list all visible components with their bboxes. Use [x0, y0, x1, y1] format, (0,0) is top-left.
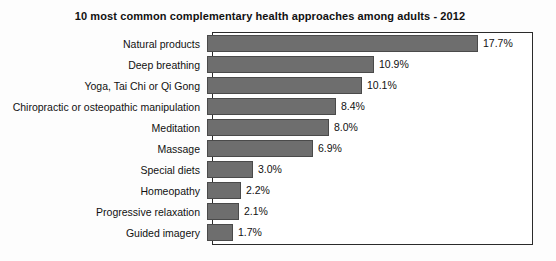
- bar-row: Guided imagery1.7%: [0, 222, 534, 243]
- bar-track: 2.2%: [206, 180, 534, 201]
- bar: [207, 182, 241, 199]
- bar-track: 6.9%: [206, 138, 534, 159]
- category-label: Massage: [0, 143, 206, 155]
- bar: [207, 161, 253, 178]
- bar: [207, 56, 374, 73]
- bar-value-label: 8.0%: [334, 121, 358, 134]
- bar-track: 8.0%: [206, 117, 534, 138]
- bar: [207, 203, 239, 220]
- category-label: Homeopathy: [0, 185, 206, 197]
- bar-track: 2.1%: [206, 201, 534, 222]
- bar: [207, 224, 233, 241]
- category-label: Chiropractic or osteopathic manipulation: [0, 101, 206, 113]
- bar: [207, 140, 313, 157]
- bar-row: Massage6.9%: [0, 138, 534, 159]
- bar-row: Natural products17.7%: [0, 33, 534, 54]
- category-label: Yoga, Tai Chi or Qi Gong: [0, 80, 206, 92]
- bar-row: Yoga, Tai Chi or Qi Gong10.1%: [0, 75, 534, 96]
- bar-value-label: 1.7%: [238, 226, 262, 239]
- category-label: Meditation: [0, 122, 206, 134]
- bar: [207, 98, 336, 115]
- bar-row: Special diets3.0%: [0, 159, 534, 180]
- bar: [207, 119, 329, 136]
- bar-row: Progressive relaxation2.1%: [0, 201, 534, 222]
- bar-value-label: 3.0%: [258, 163, 282, 176]
- bar-row: Deep breathing10.9%: [0, 54, 534, 75]
- category-label: Deep breathing: [0, 59, 206, 71]
- bar-value-label: 8.4%: [341, 100, 365, 113]
- bar-track: 17.7%: [206, 33, 534, 54]
- category-label: Progressive relaxation: [0, 206, 206, 218]
- bar: [207, 77, 362, 94]
- bar-track: 10.9%: [206, 54, 534, 75]
- bar-value-label: 10.1%: [367, 79, 397, 92]
- chart-title: 10 most common complementary health appr…: [0, 10, 540, 22]
- bar-track: 10.1%: [206, 75, 534, 96]
- bar-row: Meditation8.0%: [0, 117, 534, 138]
- bar-track: 8.4%: [206, 96, 534, 117]
- category-label: Natural products: [0, 38, 206, 50]
- bar-row: Chiropractic or osteopathic manipulation…: [0, 96, 534, 117]
- category-label: Special diets: [0, 164, 206, 176]
- bar-rows: Natural products17.7%Deep breathing10.9%…: [0, 32, 534, 245]
- bar-value-label: 10.9%: [379, 58, 409, 71]
- chart-figure: 10 most common complementary health appr…: [0, 0, 556, 261]
- bar-value-label: 6.9%: [318, 142, 342, 155]
- category-label: Guided imagery: [0, 227, 206, 239]
- bar-value-label: 2.2%: [246, 184, 270, 197]
- bar-value-label: 17.7%: [483, 37, 513, 50]
- bar-row: Homeopathy2.2%: [0, 180, 534, 201]
- bar-track: 3.0%: [206, 159, 534, 180]
- plot-area: Natural products17.7%Deep breathing10.9%…: [0, 32, 534, 246]
- bar-track: 1.7%: [206, 222, 534, 243]
- bar-value-label: 2.1%: [244, 205, 268, 218]
- bar: [207, 35, 478, 52]
